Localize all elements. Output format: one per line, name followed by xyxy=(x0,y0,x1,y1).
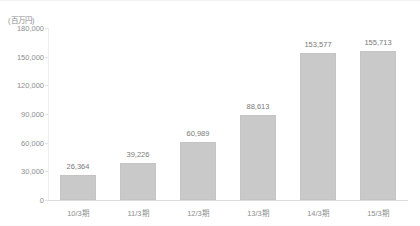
bar[interactable] xyxy=(120,163,156,200)
x-axis-tick-label: 11/3期 xyxy=(108,207,168,218)
y-axis-tick-label: 0 xyxy=(40,196,44,205)
x-axis-tick-label: 14/3期 xyxy=(288,207,348,218)
plot-area: 26,36439,22660,98988,613153,577155,713 xyxy=(48,28,408,200)
bar-value-label: 153,577 xyxy=(304,40,331,49)
bar-group: 88,613 xyxy=(228,28,288,200)
bar-value-label: 39,226 xyxy=(127,150,150,159)
x-axis-line xyxy=(48,200,408,201)
bar-group: 155,713 xyxy=(348,28,408,200)
y-axis-tick-label: 90,000 xyxy=(21,110,44,119)
bar[interactable] xyxy=(240,115,276,200)
bar-group: 26,364 xyxy=(48,28,108,200)
bar-group: 60,989 xyxy=(168,28,228,200)
bar[interactable] xyxy=(60,175,96,200)
frame-top-divider xyxy=(0,0,420,1)
bar-value-label: 60,989 xyxy=(187,129,210,138)
x-axis-tick-label: 13/3期 xyxy=(228,207,288,218)
bar[interactable] xyxy=(360,51,396,200)
y-axis-tick-label: 150,000 xyxy=(17,52,44,61)
y-axis-tick-labels: 030,00060,00090,000120,000150,000180,000 xyxy=(0,0,44,226)
y-axis-tick-label: 180,000 xyxy=(17,24,44,33)
bar-value-label: 26,364 xyxy=(67,162,90,171)
x-axis-tick-label: 12/3期 xyxy=(168,207,228,218)
bar[interactable] xyxy=(300,53,336,200)
bar-value-label: 155,713 xyxy=(364,38,391,47)
y-axis-tick-label: 30,000 xyxy=(21,167,44,176)
x-axis-tick-label: 10/3期 xyxy=(48,207,108,218)
x-axis-tick-label: 15/3期 xyxy=(348,207,408,218)
bar[interactable] xyxy=(180,142,216,200)
bar-group: 153,577 xyxy=(288,28,348,200)
bar-group: 39,226 xyxy=(108,28,168,200)
y-axis-tick-label: 120,000 xyxy=(17,81,44,90)
bar-chart: (百万円) 030,00060,00090,000120,000150,0001… xyxy=(0,0,420,226)
bar-value-label: 88,613 xyxy=(247,102,270,111)
frame-bottom-divider xyxy=(0,225,420,226)
y-axis-tick-label: 60,000 xyxy=(21,138,44,147)
